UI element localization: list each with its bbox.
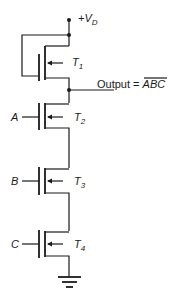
transistor-t2: A T2 [10, 103, 86, 168]
t1-label: T1 [72, 56, 83, 71]
input-c-label: C [11, 238, 19, 250]
output-node: Output = ABC [67, 78, 167, 92]
input-b-label: B [11, 175, 18, 187]
t3-label: T3 [74, 175, 86, 190]
ground-icon [58, 277, 81, 287]
input-a-label: A [10, 111, 18, 123]
transistor-t1: T1 [39, 46, 83, 103]
output-expression: ABC [142, 78, 166, 90]
transistor-t3: B T3 [11, 167, 86, 231]
substrate-arrow-icon [47, 242, 52, 247]
nand-gate-circuit: +VD T1 Output = ABC A T2 [0, 0, 176, 303]
substrate-arrow-icon [47, 61, 52, 66]
supply-node: +VD [67, 12, 98, 27]
substrate-arrow-icon [47, 115, 52, 120]
output-label: Output = ABC [97, 78, 165, 90]
t4-label: T4 [74, 238, 86, 253]
transistor-t4: C T4 [11, 230, 86, 277]
t2-label: T2 [74, 111, 86, 126]
substrate-arrow-icon [47, 179, 52, 184]
supply-label: +VD [78, 12, 98, 27]
